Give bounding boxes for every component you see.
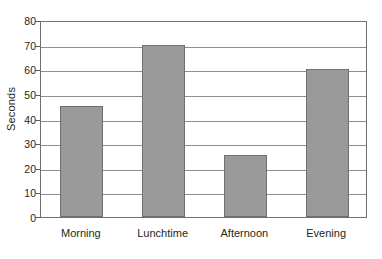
y-axis-tick-label: 20 xyxy=(24,164,36,175)
y-axis-tick-label: 10 xyxy=(24,188,36,199)
y-axis-title-label: Seconds xyxy=(5,87,17,131)
bar xyxy=(60,106,103,217)
y-axis-title: Seconds xyxy=(0,0,22,218)
x-axis-tick-label: Evening xyxy=(306,226,346,240)
y-axis-tick-label: 60 xyxy=(24,65,36,76)
x-axis-tick-labels: MorningLunchtimeAfternoonEvening xyxy=(40,226,367,244)
bar xyxy=(306,69,349,217)
x-axis-tick-label: Lunchtime xyxy=(137,226,188,240)
bar xyxy=(142,45,185,217)
y-axis-tick-label: 40 xyxy=(24,114,36,125)
y-axis-tick-label: 80 xyxy=(24,16,36,27)
y-axis-tick-label: 50 xyxy=(24,90,36,101)
plot-area xyxy=(40,21,367,218)
x-axis-tick-label: Afternoon xyxy=(221,226,269,240)
bars-layer xyxy=(41,22,366,217)
bar-chart: Seconds 01020304050607080 MorningLunchti… xyxy=(0,0,382,259)
y-axis-tick-label: 70 xyxy=(24,40,36,51)
y-axis-tick-labels: 01020304050607080 xyxy=(20,21,36,218)
x-axis-tick-label: Morning xyxy=(61,226,101,240)
bar xyxy=(224,155,267,217)
y-axis-tick-label: 30 xyxy=(24,139,36,150)
